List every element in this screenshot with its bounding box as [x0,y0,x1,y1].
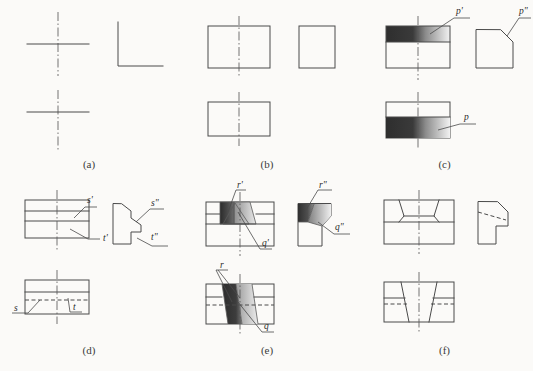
panel-e-label-r-front: r' [237,180,244,190]
panel-f-side-profile [478,202,508,244]
panel-e-label-q-front: q' [262,238,270,248]
technical-drawing-figure: (a) (b) [0,0,533,371]
panel-d: s' t' s" t" s t (d) [0,182,178,357]
panel-f-top-taper-right [429,282,437,322]
panel-e: r' q' r" q" [178,182,356,357]
panel-e-caption: (e) [178,344,356,356]
panel-c-drawing: p' p" p [356,0,533,160]
panel-c-label-p-side: p" [518,6,529,16]
panel-d-label-t-top: t [73,302,76,312]
panel-b-drawing [178,0,356,160]
panel-d-label-s-top: s [14,303,18,313]
panel-f-front-left-wall [399,200,404,222]
panel-a-side-corner [118,22,163,66]
panel-c-label-p-front: p' [455,6,464,16]
panel-d-label-t-front: t' [103,233,109,243]
panel-f-drawing [356,182,533,357]
panel-d-label-t-side: t" [151,232,159,242]
panel-c: p' p" p (c) [356,0,533,160]
panel-d-label-s-front: s' [87,195,94,205]
panel-d-leader-s-front [74,207,97,218]
panel-f-front-right-wall [434,200,439,222]
panel-d-leader-s-side [136,209,164,222]
panel-b-caption: (b) [178,158,356,170]
panel-f-top-taper-left [401,282,409,322]
panel-c-leader-p-side [507,18,531,36]
panel-a-drawing [0,0,178,160]
panel-e-label-q-top: q [264,321,269,331]
panel-c-label-p-top: p [463,112,469,122]
panel-f-side-hidden-line [478,212,506,220]
panel-e-drawing: r' q' r" q" [178,182,356,357]
panel-b-side-rect [299,26,335,68]
panel-d-caption: (d) [0,344,178,356]
panel-e-label-r-top: r [220,260,224,270]
panel-a: (a) [0,0,178,160]
panel-c-caption: (c) [356,158,533,170]
panel-d-label-s-side: s" [151,198,160,208]
panel-f-caption: (f) [356,344,533,356]
panel-f: (f) [356,182,533,357]
panel-e-label-r-side: r" [319,180,328,190]
panel-b: (b) [178,0,356,160]
panel-e-front-dark-face [220,202,234,224]
panel-a-caption: (a) [0,158,178,170]
panel-d-drawing: s' t' s" t" s t [0,182,178,357]
panel-d-side-profile [113,204,141,244]
panel-e-label-q-side: q" [335,222,345,232]
